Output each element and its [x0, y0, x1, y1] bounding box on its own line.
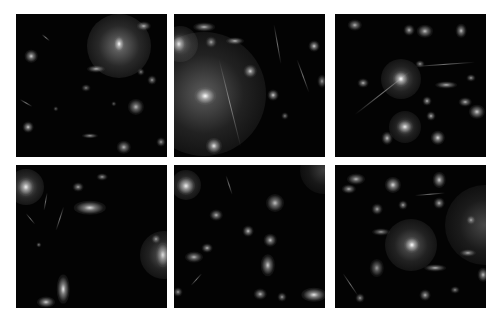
- lensed-arc: [343, 273, 358, 295]
- galaxy-source: [478, 268, 486, 282]
- galaxy-source: [434, 198, 445, 209]
- galaxy-source: [404, 25, 415, 36]
- galaxy-source: [97, 173, 108, 180]
- galaxy-source: [148, 76, 157, 85]
- panel-2: [174, 14, 325, 157]
- galaxy-source: [264, 234, 277, 247]
- galaxy-source: [243, 226, 254, 237]
- galaxy-source: [193, 23, 215, 32]
- galaxy-source: [467, 74, 476, 81]
- galaxy-source: [456, 24, 467, 38]
- galaxy-source: [370, 259, 384, 277]
- galaxy-source: [301, 288, 325, 302]
- galaxy-source: [244, 65, 257, 78]
- galaxy-source: [206, 37, 217, 48]
- galaxy-source: [114, 36, 125, 52]
- galaxy-source: [385, 177, 401, 193]
- galaxy-source: [416, 60, 425, 67]
- galaxy-source: [57, 275, 70, 304]
- lensed-arc: [191, 273, 202, 286]
- galaxy-source: [174, 288, 183, 297]
- galaxy-source: [137, 68, 144, 75]
- galaxy-source: [202, 244, 213, 253]
- galaxy-source: [420, 290, 431, 301]
- galaxy-source: [278, 293, 287, 302]
- galaxy-source: [194, 87, 216, 105]
- galaxy-source: [268, 90, 279, 101]
- lensed-arc: [415, 192, 445, 196]
- galaxy-source: [117, 141, 131, 154]
- galaxy-source: [152, 235, 161, 244]
- galaxy-source: [309, 41, 320, 52]
- galaxy-source: [157, 138, 166, 147]
- galaxy-source: [82, 133, 98, 138]
- galaxy-halo: [300, 165, 325, 194]
- galaxy-source: [431, 131, 445, 145]
- galaxy-source: [53, 106, 58, 111]
- galaxy-source: [185, 252, 203, 263]
- lensed-arc: [297, 59, 310, 92]
- galaxy-source: [261, 254, 275, 276]
- galaxy-source: [128, 99, 144, 115]
- panel-1: [16, 14, 167, 157]
- galaxy-source: [467, 216, 476, 225]
- galaxy-source: [417, 25, 433, 38]
- galaxy-source: [36, 242, 41, 247]
- galaxy-source: [459, 98, 472, 107]
- galaxy-source: [435, 81, 457, 88]
- panel-5: [174, 165, 325, 308]
- panel-6: [335, 165, 486, 308]
- galaxy-source: [73, 183, 84, 192]
- galaxy-source: [37, 297, 55, 308]
- galaxy-source: [399, 201, 408, 210]
- galaxy-source: [74, 201, 106, 215]
- galaxy-source: [423, 97, 432, 106]
- galaxy-source: [451, 286, 460, 293]
- panel-4: [16, 165, 167, 308]
- galaxy-source: [427, 112, 436, 121]
- galaxy-source: [358, 79, 369, 88]
- galaxy-source: [210, 210, 223, 221]
- galaxy-source: [469, 105, 485, 119]
- lensed-arc: [226, 175, 233, 194]
- galaxy-source: [424, 264, 446, 271]
- galaxy-source: [382, 132, 393, 145]
- lensed-arc: [26, 213, 36, 224]
- galaxy-source: [254, 289, 267, 300]
- lensed-arc: [42, 34, 50, 41]
- galaxy-source: [348, 20, 362, 31]
- galaxy-source: [347, 174, 365, 185]
- lensed-arc: [56, 207, 65, 231]
- galaxy-source: [356, 294, 365, 303]
- galaxy-source: [281, 112, 288, 119]
- panel-3: [335, 14, 486, 157]
- galaxy-source: [433, 172, 446, 188]
- lensed-arc: [20, 99, 33, 107]
- galaxy-source: [82, 84, 91, 91]
- lensed-arc: [274, 24, 282, 64]
- galaxy-source: [266, 194, 284, 212]
- galaxy-source: [342, 185, 356, 194]
- lensed-arc: [44, 193, 48, 211]
- galaxy-source: [25, 50, 38, 63]
- galaxy-source: [318, 75, 326, 88]
- galaxy-source: [23, 122, 34, 133]
- galaxy-source: [156, 242, 167, 267]
- galaxy-source: [372, 204, 383, 215]
- galaxy-source: [111, 101, 116, 106]
- galaxy-source: [137, 22, 151, 31]
- galaxy-source: [177, 177, 195, 195]
